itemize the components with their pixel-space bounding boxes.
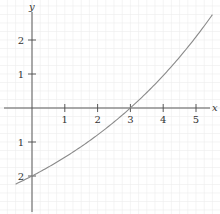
x-tick-label: 4 bbox=[160, 114, 166, 125]
axes bbox=[4, 12, 210, 212]
x-tick-label: 2 bbox=[94, 114, 100, 125]
y-tick-label: 1 bbox=[18, 69, 24, 80]
x-tick-label: 1 bbox=[62, 114, 68, 125]
x-tick-label: 3 bbox=[127, 114, 133, 125]
y-tick-label: 2 bbox=[18, 35, 24, 46]
chart-plot: 123452112 x y bbox=[0, 0, 220, 214]
y-tick-label: 2 bbox=[18, 171, 24, 182]
grid-lines bbox=[0, 0, 220, 214]
y-tick-label: 1 bbox=[18, 137, 24, 148]
x-axis-label: x bbox=[212, 102, 218, 113]
x-tick-label: 5 bbox=[193, 114, 199, 125]
y-axis-label: y bbox=[28, 1, 35, 12]
